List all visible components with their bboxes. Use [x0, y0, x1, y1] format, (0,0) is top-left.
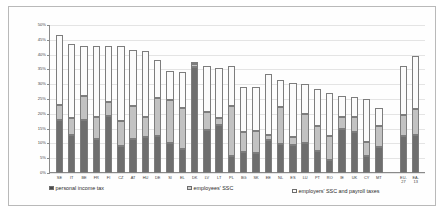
bar-segment-employers-ssc	[191, 62, 198, 64]
y-axis-tick-label: 40%	[38, 53, 46, 57]
bar-segment-employers-ssc	[179, 72, 186, 108]
bar-segment-employers-ssc	[363, 99, 370, 142]
bar-segment-employees-ssc	[105, 102, 112, 116]
bar-segment-employees-ssc	[228, 106, 235, 155]
bar-segment-employers-ssc	[215, 68, 222, 118]
y-axis-tick-label: 0%	[40, 171, 46, 175]
bar-segment-employees-ssc	[375, 126, 382, 147]
bar-segment-pit	[363, 156, 370, 173]
legend-swatch-icon	[292, 189, 297, 194]
bar-segment-pit	[105, 116, 112, 173]
bar-segment-pit	[289, 145, 296, 173]
bar-segment-employees-ssc	[203, 112, 210, 129]
bar-segment-employees-ssc	[351, 117, 358, 131]
bar-segment-employees-ssc	[338, 117, 345, 128]
legend-item-employees-ssc: employees' SSC	[187, 185, 233, 191]
bar-segment-employees-ssc	[363, 142, 370, 156]
x-axis-tick-label: MT	[371, 176, 387, 180]
bar-segment-employees-ssc	[289, 137, 296, 146]
bar-segment-pit	[252, 153, 259, 173]
bar-segment-employers-ssc	[326, 93, 333, 136]
bar-segment-employers-ssc	[338, 96, 345, 117]
chart-screenshot: 0%5%10%15%20%25%30%35%40%45%50% SEITBEFR…	[0, 0, 444, 212]
bar-segment-employees-ssc	[240, 132, 247, 152]
bar-segment-pit	[154, 136, 161, 173]
bar-segment-pit	[375, 147, 382, 173]
bar-segment-pit	[228, 156, 235, 173]
bar-segment-employees-ssc	[191, 64, 198, 67]
bar-segment-employers-ssc	[203, 66, 210, 112]
bar-segment-pit	[129, 139, 136, 173]
bar-segment-employers-ssc	[117, 46, 124, 121]
y-axis-tick-label: 20%	[38, 112, 46, 116]
y-axis-tick-label: 25%	[38, 97, 46, 101]
bar-segment-employers-ssc	[93, 46, 100, 117]
bar-segment-employees-ssc	[252, 131, 259, 153]
y-axis-tick-label: 30%	[38, 82, 46, 86]
bar-segment-pit	[166, 143, 173, 173]
bar-segment-pit	[68, 135, 75, 173]
bar-segment-employers-ssc	[68, 44, 75, 118]
bar-segment-employees-ssc	[215, 118, 222, 125]
bar-series-group: SEITBEFRFICZATHUDESIELDKLVLTPLBGSKEENLES…	[49, 25, 425, 173]
y-axis-tick-label: 50%	[38, 23, 46, 27]
bar-segment-employees-ssc	[314, 126, 321, 151]
bar-segment-employees-ssc	[265, 135, 272, 141]
bar-segment-employees-ssc	[142, 117, 149, 138]
bar-segment-pit	[240, 152, 247, 173]
bar-segment-employees-ssc	[277, 107, 284, 144]
bar-segment-employees-ssc	[117, 121, 124, 146]
bar-segment-employers-ssc	[375, 108, 382, 126]
bar-segment-employees-ssc	[301, 114, 308, 143]
bar-segment-pit	[301, 143, 308, 173]
bar-segment-pit	[351, 132, 358, 173]
bar-segment-employees-ssc	[400, 115, 407, 136]
bar-segment-employees-ssc	[166, 100, 173, 142]
legend-label: employers' SSC and payroll taxes	[299, 188, 380, 194]
bar-segment-employees-ssc	[154, 98, 161, 136]
gridline	[49, 173, 425, 174]
bar-segment-employers-ssc	[252, 87, 259, 131]
bar-segment-pit	[326, 160, 333, 173]
legend-item-employers-ssc: employers' SSC and payroll taxes	[292, 188, 379, 194]
bar-segment-employers-ssc	[277, 80, 284, 107]
bar-segment-pit	[93, 139, 100, 173]
legend-swatch-icon	[187, 186, 192, 191]
bar-segment-employers-ssc	[56, 35, 63, 105]
y-axis-tick-mark	[47, 173, 50, 174]
legend-label: personal income tax	[56, 185, 104, 191]
bar-segment-employers-ssc	[400, 66, 407, 115]
bar-segment-employers-ssc	[142, 51, 149, 117]
bar-segment-employers-ssc	[351, 97, 358, 118]
bar-segment-pit	[400, 136, 407, 173]
bar-segment-pit	[215, 125, 222, 173]
bar-segment-employees-ssc	[80, 96, 87, 120]
bar-segment-employees-ssc	[56, 105, 63, 120]
legend-swatch-icon	[49, 186, 54, 191]
bar-segment-employees-ssc	[179, 108, 186, 149]
bar-segment-pit	[80, 120, 87, 173]
plot-area: 0%5%10%15%20%25%30%35%40%45%50% SEITBEFR…	[49, 25, 425, 173]
bar-segment-employers-ssc	[314, 89, 321, 126]
bar-segment-employers-ssc	[289, 83, 296, 137]
bar-segment-employers-ssc	[240, 87, 247, 133]
bar-segment-pit	[412, 135, 419, 173]
chart-frame: 0%5%10%15%20%25%30%35%40%45%50% SEITBEFR…	[8, 6, 436, 206]
bar-segment-employers-ssc	[129, 50, 136, 106]
y-axis-tick-label: 10%	[38, 141, 46, 145]
bar-segment-employees-ssc	[412, 109, 419, 136]
bar-segment-employees-ssc	[326, 136, 333, 161]
bar-segment-pit	[179, 149, 186, 173]
y-axis-tick-label: 45%	[38, 38, 46, 42]
bar-segment-employers-ssc	[80, 46, 87, 96]
legend-label: employees' SSC	[194, 185, 234, 191]
bar-segment-pit	[117, 146, 124, 173]
bar-segment-employers-ssc	[265, 74, 272, 135]
bar-segment-pit	[56, 120, 63, 173]
bar-segment-pit	[142, 137, 149, 173]
bar-segment-pit	[265, 140, 272, 173]
bar-segment-employees-ssc	[129, 106, 136, 139]
bar-segment-employers-ssc	[166, 71, 173, 101]
bar-segment-employers-ssc	[301, 84, 308, 114]
bar-segment-pit	[203, 130, 210, 174]
